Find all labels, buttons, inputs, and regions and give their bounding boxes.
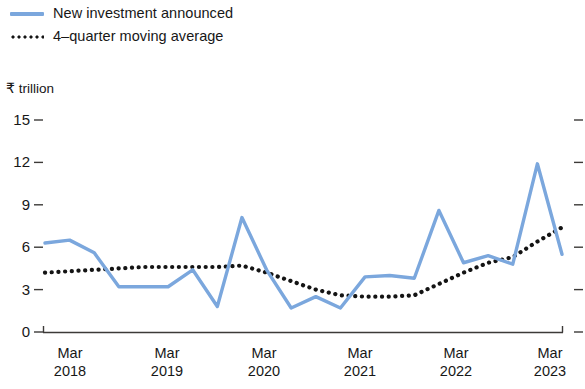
- investment-chart: New investment announced 4–quarter movin…: [0, 0, 585, 389]
- axis-lines: [43, 326, 563, 333]
- y-axis-ticks-left: [34, 120, 43, 332]
- plot-area: [0, 0, 585, 389]
- y-axis-ticks-right: [574, 120, 583, 332]
